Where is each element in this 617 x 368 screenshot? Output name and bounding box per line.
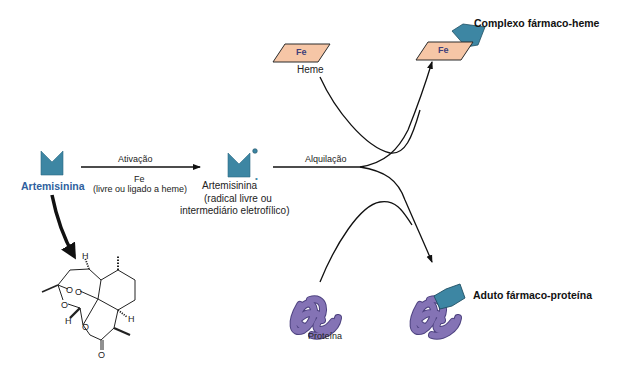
adduct-protein-label: Aduto fármaco-proteína	[473, 289, 592, 301]
alkylation-arrows	[273, 62, 432, 282]
atom-h1: H	[82, 250, 89, 262]
alkylation-label: Alquilação	[305, 154, 347, 165]
activation-label: Ativação	[118, 154, 153, 165]
radical-dot-icon	[253, 149, 258, 154]
artemisinin-icon	[41, 151, 63, 175]
protein-label: Proteína	[308, 331, 342, 342]
complex-fe-label: Fe	[438, 45, 449, 55]
heme-fe-label: Fe	[296, 47, 307, 57]
drug-heme-complex-icon	[416, 24, 485, 60]
artemisinin-structure	[42, 255, 135, 350]
atom-o4: O	[82, 321, 89, 333]
atom-o3: O	[61, 299, 68, 311]
activated-sub-label-1: (radical livre ou	[204, 193, 272, 205]
drug-protein-adduct-icon	[414, 284, 465, 336]
heme-label: Heme	[297, 64, 324, 76]
activated-radical-dot: •	[255, 174, 258, 183]
structure-pointer-arrow	[52, 195, 74, 256]
activation-condition-label: (livre ou ligado a heme)	[93, 184, 187, 195]
artemisinin-label: Artemisinina	[21, 180, 85, 192]
activated-artemisinin-label: Artemisinina	[202, 180, 257, 192]
activated-artemisinin-icon	[228, 149, 257, 177]
atom-o2: O	[75, 286, 82, 298]
atom-h2: H	[65, 315, 72, 327]
atom-h3: H	[128, 313, 135, 325]
activated-sub-label-2: intermediário eletrofílico)	[180, 205, 290, 217]
atom-o5: O	[98, 349, 105, 361]
complex-heme-label: Complexo fármaco-heme	[474, 17, 599, 29]
atom-o1: O	[66, 284, 73, 296]
